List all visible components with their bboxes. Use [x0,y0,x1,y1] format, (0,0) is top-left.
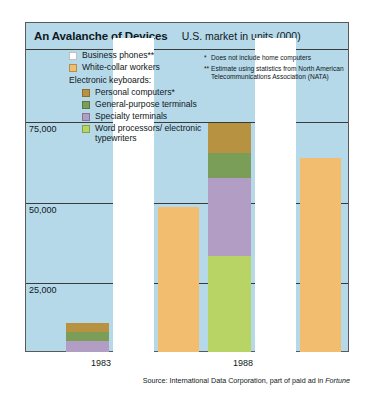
legend-label-general-purpose-terminals: General-purpose terminals [95,99,219,110]
segment-personal-computers [66,323,109,332]
segment-specialty-terminals [66,341,109,352]
source-note: Source: International Data Corporation, … [143,376,350,385]
segment-general-purpose-terminals [66,332,109,341]
footnote-single-asterisk: * Does not include home computers [204,54,346,62]
footnote-double-asterisk: ** Estimate using statistics from North … [204,65,346,81]
bar-1988-electronic-keyboards [208,123,251,352]
chart-header: An Avalanche of Devices U.S. market in u… [26,23,348,50]
legend-item-business-phones: Business phones** [69,50,219,61]
ytick-label-50000: 50,000 [29,205,57,215]
legend-swatch-word-processors [82,125,90,133]
legend-group-heading: Electronic keyboards: [69,75,219,86]
footnote-mark: * [204,54,211,62]
legend-swatch-general-purpose-terminals [82,101,90,109]
legend-label-white-collar-workers: White-collar workers [82,62,219,73]
legend-label-specialty-terminals: Specialty terminals [95,111,219,122]
chart-footnotes: * Does not include home computers ** Est… [204,54,346,85]
segment-word-processors [208,256,251,352]
xaxis-label-1988: 1988 [213,358,273,368]
legend-item-white-collar-workers: White-collar workers [69,62,219,73]
chart-figure: An Avalanche of Devices U.S. market in u… [25,22,349,352]
footnote-text: Does not include home computers [211,54,346,62]
legend-item-specialty-terminals: Specialty terminals [69,111,219,122]
legend-swatch-business-phones [69,52,77,60]
legend-item-personal-computers: Personal computers* [69,87,219,98]
ytick-label-25000: 25,000 [29,285,57,295]
bar-1983-white-collar-workers [158,207,199,352]
chart-legend: Business phones** White-collar workers E… [69,50,219,144]
legend-label-personal-computers: Personal computers* [95,87,219,98]
ytick-label-75000: 75,000 [29,124,57,134]
legend-label-word-processors: Word processors/ electronic typewriters [95,123,219,143]
legend-swatch-personal-computers [82,89,90,97]
segment-specialty-terminals [208,178,251,256]
source-publication: Fortune [325,376,350,385]
legend-swatch-specialty-terminals [82,113,90,121]
bar-1988-business-phones [255,38,296,352]
source-prefix: Source: International Data Corporation, … [143,376,326,385]
bar-1988-white-collar-workers [300,158,341,352]
footnote-text: Estimate using statistics from North Ame… [211,65,346,81]
bar-1983-electronic-keyboards [66,323,109,352]
legend-label-business-phones: Business phones** [82,50,219,61]
legend-item-word-processors: Word processors/ electronic typewriters [69,123,219,143]
segment-general-purpose-terminals [208,153,251,178]
xaxis-label-1983: 1983 [71,358,131,368]
legend-item-general-purpose-terminals: General-purpose terminals [69,99,219,110]
legend-swatch-white-collar-workers [69,64,77,72]
footnote-mark: ** [204,65,211,81]
